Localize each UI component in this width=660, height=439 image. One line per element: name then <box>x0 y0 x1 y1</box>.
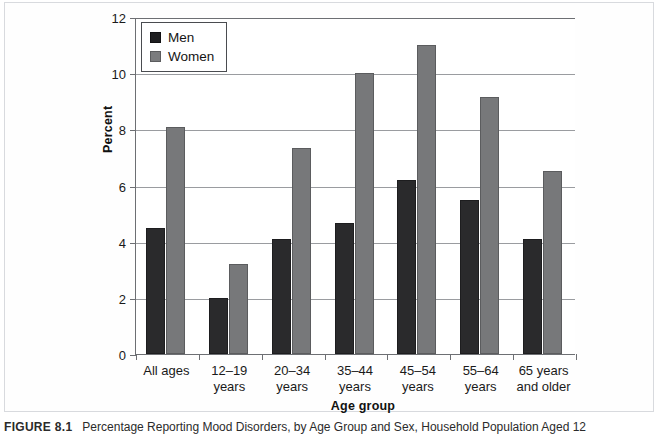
legend-swatch-men <box>150 32 161 43</box>
x-axis-tick <box>262 354 263 360</box>
y-axis-tick-label: 4 <box>119 236 126 249</box>
bar-women <box>292 148 311 354</box>
bar-group <box>325 18 388 354</box>
y-axis-tick-label: 8 <box>119 124 126 137</box>
bar-men <box>272 239 291 354</box>
figure-page: Percent 024681012 All ages12–19years20–3… <box>0 0 660 439</box>
x-axis-category-label: 65 yearsand older <box>501 363 587 395</box>
legend-item: Men <box>150 28 214 47</box>
bar-men <box>523 239 542 354</box>
bar-women <box>355 73 374 354</box>
bar-women <box>543 171 562 354</box>
x-axis-tick <box>136 354 137 360</box>
chart-legend: MenWomen <box>141 22 227 72</box>
bar-women <box>166 127 185 354</box>
x-axis-tick <box>450 354 451 360</box>
bar-men <box>209 298 228 354</box>
bar-men <box>335 223 354 354</box>
x-axis-title-text: Age group <box>331 399 395 413</box>
y-axis-tick-label: 0 <box>119 349 126 362</box>
x-axis-tick <box>199 354 200 360</box>
figure-caption: FIGURE 8.1Percentage Reporting Mood Diso… <box>4 420 656 434</box>
figure-frame: Percent 024681012 All ages12–19years20–3… <box>4 2 654 412</box>
y-axis-tick-label: 2 <box>119 292 126 305</box>
bar-group <box>262 18 325 354</box>
legend-label: Men <box>168 31 194 45</box>
x-axis-tick <box>513 354 514 360</box>
x-axis-category-label-line: 65 years <box>501 363 587 379</box>
legend-swatch-women <box>150 51 161 62</box>
x-axis-tick <box>387 354 388 360</box>
legend-label: Women <box>168 50 214 64</box>
bar-men <box>146 228 165 354</box>
bar-men <box>397 180 416 354</box>
bar-group <box>450 18 513 354</box>
x-axis-category-label-line: and older <box>501 379 587 395</box>
y-axis-title: Percent <box>101 106 115 153</box>
bar-men <box>460 200 479 354</box>
y-axis-tick-label: 10 <box>112 68 126 81</box>
figure-caption-text: Percentage Reporting Mood Disorders, by … <box>82 420 586 434</box>
bar-women <box>417 45 436 354</box>
bar-women <box>229 264 248 354</box>
x-axis-tick <box>576 354 577 360</box>
x-axis-title: Age group <box>5 399 660 413</box>
bar-group <box>513 18 576 354</box>
x-axis-tick <box>325 354 326 360</box>
bar-group <box>387 18 450 354</box>
y-axis-tick-label: 6 <box>119 180 126 193</box>
figure-caption-label: FIGURE 8.1 <box>4 420 72 434</box>
bar-women <box>480 97 499 354</box>
legend-item: Women <box>150 47 214 66</box>
y-axis-tick-label: 12 <box>112 12 126 25</box>
